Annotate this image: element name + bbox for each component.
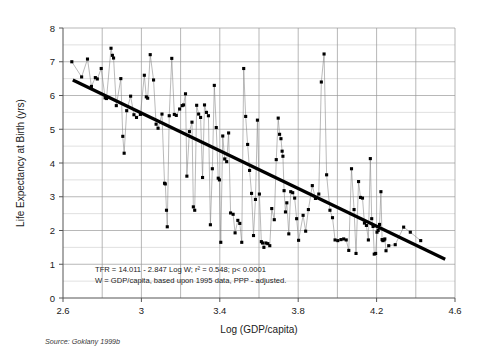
x-axis-title: Log (GDP/capita) [220,324,297,335]
svg-text:1: 1 [50,259,55,270]
annotation-definition: W = GDP/capita, based upon 1995 data, PP… [95,276,286,285]
annotation-equation: TFR = 14.011 - 2.847 Log W; r² = 0.548; … [95,265,266,274]
svg-text:3: 3 [50,191,55,202]
svg-text:5: 5 [50,124,55,135]
figure-background [0,0,482,354]
scatter-plot-svg: 012345678 2.633.43.84.24.6 TFR = 14.011 … [0,0,482,354]
svg-text:7: 7 [50,56,55,67]
svg-text:2: 2 [50,225,55,236]
svg-text:8: 8 [50,23,55,34]
svg-text:2.6: 2.6 [56,305,69,316]
svg-text:3.8: 3.8 [292,305,305,316]
svg-text:4.6: 4.6 [448,305,461,316]
svg-text:4: 4 [50,158,55,169]
svg-text:4.2: 4.2 [370,305,383,316]
svg-text:3: 3 [139,305,144,316]
chart-figure: 012345678 2.633.43.84.24.6 TFR = 14.011 … [0,0,482,354]
svg-text:0: 0 [50,293,55,304]
y-axis-tick-labels: 012345678 [50,23,55,304]
svg-text:6: 6 [50,90,55,101]
source-note: Source: Goklany 1999b [45,337,120,346]
svg-text:3.4: 3.4 [213,305,226,316]
y-axis-title: Life Expectancy at Birth (yrs) [15,99,26,227]
